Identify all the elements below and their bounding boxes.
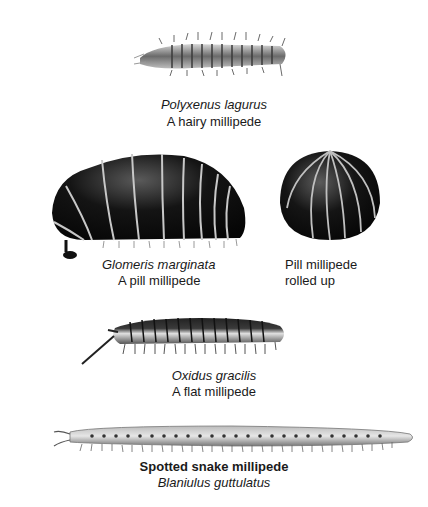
snake-scientific-name: Blaniulus guttulatus (0, 475, 428, 490)
rolled-pill-millipede-illustration (275, 148, 385, 242)
flat-common-name: A flat millipede (0, 384, 428, 399)
rolled-label-line2: rolled up (285, 273, 395, 288)
snake-common-name: Spotted snake millipede (0, 459, 428, 474)
pill-scientific-name: Glomeris marginata (102, 257, 272, 272)
pill-common-name: A pill millipede (118, 273, 268, 288)
flat-millipede-illustration (80, 314, 290, 370)
snake-millipede-illustration (52, 422, 416, 456)
hairy-millipede-illustration (132, 28, 292, 78)
hairy-common-name: A hairy millipede (0, 114, 428, 129)
flat-scientific-name: Oxidus gracilis (0, 368, 428, 383)
hairy-scientific-name: Polyxenus lagurus (0, 97, 428, 112)
pill-millipede-illustration (44, 148, 250, 263)
rolled-label-line1: Pill millipede (285, 257, 395, 272)
